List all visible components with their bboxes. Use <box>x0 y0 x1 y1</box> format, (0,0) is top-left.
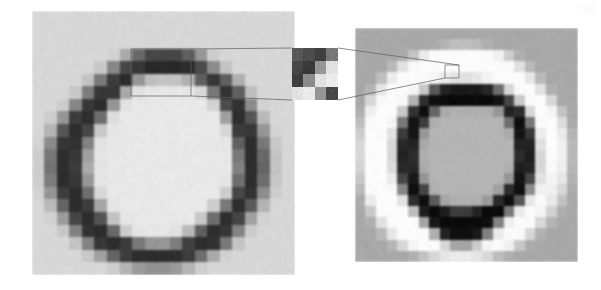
enhanced-image-bitmap <box>355 28 578 262</box>
scan-artifact <box>577 3 595 14</box>
enhanced-image-panel <box>355 28 578 262</box>
figure-canvas <box>0 0 601 290</box>
magnified-pixel-inset <box>292 48 338 100</box>
magnified-pixel-bitmap <box>292 48 338 100</box>
original-image-panel <box>32 11 295 275</box>
original-image-bitmap <box>32 11 295 275</box>
